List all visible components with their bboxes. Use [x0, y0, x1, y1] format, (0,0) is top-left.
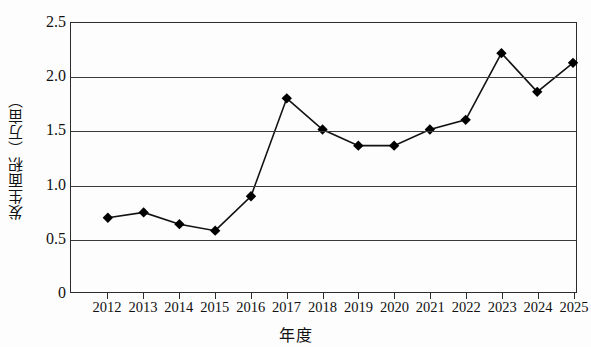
data-point-marker	[460, 115, 470, 125]
data-point-marker	[174, 219, 184, 229]
gridline	[71, 186, 576, 187]
y-tick-label: 1.5	[26, 122, 66, 138]
gridline	[71, 77, 576, 78]
data-point-marker	[353, 141, 363, 151]
line-chart: 发生面积（万亩） 2.52.01.51.00.50 20122013201420…	[0, 0, 591, 347]
x-axis-tick-labels: 2012201320142015201620172018201920202021…	[0, 300, 591, 324]
plot-area	[70, 22, 577, 293]
data-point-marker	[103, 213, 113, 223]
data-point-marker	[425, 124, 435, 134]
gridline	[71, 240, 576, 241]
x-axis-title: 年度	[0, 322, 591, 346]
y-tick-label: 2.5	[26, 14, 66, 30]
data-point-marker	[389, 141, 399, 151]
series-line	[108, 53, 573, 231]
y-tick-label: 2.0	[26, 68, 66, 84]
y-tick-label: 1.0	[26, 177, 66, 193]
y-tick-label: 0.5	[26, 231, 66, 247]
x-tick-label: 2025	[552, 300, 591, 315]
gridline	[71, 131, 576, 132]
data-point-marker	[138, 207, 148, 217]
series-line-diamond	[71, 23, 576, 292]
y-axis-tick-labels: 2.52.01.51.00.50	[22, 0, 66, 347]
y-tick-label: 0	[26, 285, 66, 301]
